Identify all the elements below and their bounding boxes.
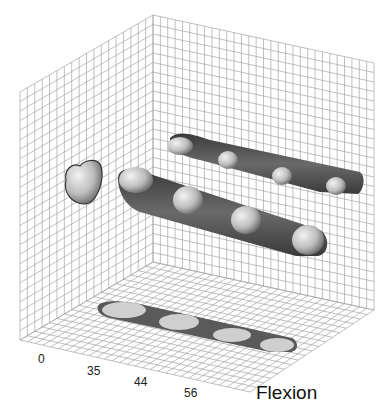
tick-label-44: 44 [134, 375, 147, 389]
figure-canvas [0, 0, 389, 415]
axis-title-flexion: Flexion [256, 382, 317, 404]
tick-label-35: 35 [87, 364, 100, 378]
tick-label-0: 0 [38, 352, 45, 366]
tick-label-56: 56 [184, 386, 197, 400]
left-wall-bone-projection [65, 160, 102, 204]
